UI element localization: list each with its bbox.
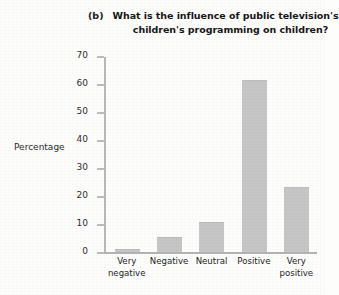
y-axis-tick-label: 40 — [77, 133, 88, 146]
bar[interactable] — [284, 187, 309, 252]
panel-label: (b) — [88, 9, 112, 22]
bar-slot — [275, 51, 317, 252]
x-axis-category-line: negative — [99, 268, 155, 280]
bar-slot — [106, 51, 148, 252]
chart-title-line-1: What is the influence of public televisi… — [112, 9, 338, 23]
bar[interactable] — [115, 249, 140, 252]
y-axis-tick-label: 0 — [82, 245, 88, 258]
y-axis-tick-label: 60 — [77, 77, 88, 90]
y-axis-tick-label: 10 — [77, 217, 88, 230]
x-axis-categories: VerynegativeNegativeNeutralPositiveVeryp… — [106, 256, 318, 290]
bar[interactable] — [242, 80, 267, 252]
chart-title-block: (b) What is the influence of public tele… — [88, 9, 320, 36]
y-axis-title: Percentage — [14, 142, 65, 152]
y-axis-tick: 10 — [97, 224, 104, 226]
y-axis-tick: 70 — [97, 56, 104, 58]
bar-slot — [233, 51, 275, 252]
bar[interactable] — [157, 237, 182, 252]
y-axis-tick-label: 20 — [77, 189, 88, 202]
y-axis-tick: 20 — [97, 196, 104, 198]
x-axis-category-label: Verypositive — [268, 256, 324, 279]
bar-slot — [148, 51, 190, 252]
y-axis-tick: 30 — [97, 168, 104, 170]
y-axis-tick-label: 30 — [77, 161, 88, 174]
bar-slot — [190, 51, 232, 252]
chart-title-line-2: children's programming on children? — [112, 23, 338, 37]
y-axis-tick: 50 — [97, 112, 104, 114]
y-axis-tick: 0 — [97, 252, 104, 254]
y-axis-tick: 40 — [97, 140, 104, 142]
y-axis-tick: 60 — [97, 84, 104, 86]
x-axis-category-line: positive — [268, 268, 324, 280]
bar-series — [106, 52, 318, 253]
y-axis-tick-label: 70 — [77, 49, 88, 62]
bar[interactable] — [199, 222, 224, 252]
x-axis-category-line: Very — [268, 256, 324, 268]
plot-area: 010203040506070 — [104, 52, 320, 253]
y-axis-tick-label: 50 — [77, 105, 88, 118]
chart-title: What is the influence of public televisi… — [112, 9, 338, 36]
